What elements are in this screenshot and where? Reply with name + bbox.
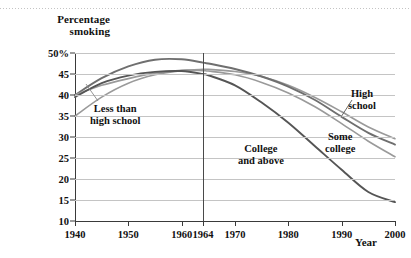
y-tick-label: 50% <box>48 48 69 59</box>
y-tick-label: 25 <box>59 153 70 164</box>
y-gridline <box>75 179 395 180</box>
x-tick-label: 1940 <box>65 229 86 240</box>
series-label-high-school: High school <box>348 88 376 111</box>
y-tick-label: 35 <box>59 111 70 122</box>
y-gridline <box>75 95 395 96</box>
label-line-2: school <box>348 100 376 111</box>
series-label-some-college: Some college <box>325 131 355 154</box>
x-tick-label: 1990 <box>331 229 352 240</box>
x-tick-mark <box>395 221 396 226</box>
y-axis-title: Percentage smoking <box>14 13 110 37</box>
x-tick-label: 1960 <box>171 229 192 240</box>
label-line-1: Less than <box>94 103 137 114</box>
y-axis-title-line2: smoking <box>70 25 110 37</box>
y-tick-label: 15 <box>59 195 70 206</box>
label-line-1: Some <box>328 131 353 142</box>
y-tick-mark <box>70 74 75 75</box>
label-line-2: college <box>325 143 355 154</box>
y-tick-mark <box>70 95 75 96</box>
y-tick-label: 40 <box>59 90 70 101</box>
y-gridline <box>75 158 395 159</box>
x-tick-label: 1950 <box>118 229 139 240</box>
x-tick-label: 1964 <box>193 229 214 240</box>
y-tick-mark <box>70 179 75 180</box>
label-line-1: High <box>351 88 373 99</box>
y-axis-title-line1: Percentage <box>57 13 110 25</box>
label-line-2: and above <box>238 155 284 166</box>
top-dotted-rule <box>0 8 411 9</box>
x-tick-mark <box>182 221 183 226</box>
x-tick-mark <box>342 221 343 226</box>
x-tick-mark <box>128 221 129 226</box>
y-gridline <box>75 53 395 54</box>
y-tick-mark <box>70 158 75 159</box>
x-axis-title: Year <box>355 236 377 248</box>
y-tick-label: 10 <box>59 216 70 227</box>
series-label-college-and-above: College and above <box>238 143 284 166</box>
y-tick-mark <box>70 200 75 201</box>
y-tick-label: 20 <box>59 174 70 185</box>
chart-figure: Percentage smoking 50%454035302520151019… <box>0 0 411 258</box>
x-tick-label: 1970 <box>225 229 246 240</box>
y-tick-label: 30 <box>59 132 70 143</box>
series-label-less-than-high-school: Less than high school <box>90 103 140 126</box>
reference-line-1964 <box>203 53 204 221</box>
y-tick-mark <box>70 116 75 117</box>
x-tick-mark <box>235 221 236 226</box>
label-line-2: high school <box>90 115 140 126</box>
y-tick-label: 45 <box>59 69 70 80</box>
y-tick-mark <box>70 137 75 138</box>
x-tick-label: 1980 <box>278 229 299 240</box>
y-gridline <box>75 74 395 75</box>
y-gridline <box>75 200 395 201</box>
y-tick-mark <box>70 53 75 54</box>
x-tick-mark <box>203 221 204 226</box>
x-tick-mark <box>288 221 289 226</box>
x-tick-label: 2000 <box>385 229 406 240</box>
label-line-1: College <box>244 143 277 154</box>
x-tick-mark <box>75 221 76 226</box>
